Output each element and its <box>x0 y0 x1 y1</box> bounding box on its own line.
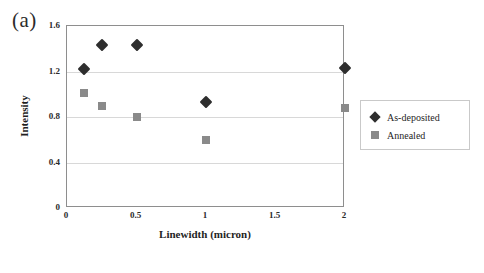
plot-area <box>66 25 344 207</box>
data-point-square <box>133 113 141 121</box>
data-point-diamond <box>95 39 108 52</box>
x-tick-label: 2 <box>342 210 347 220</box>
y-axis-tick-labels: 00.40.81.21.6 <box>0 25 64 207</box>
legend: As-depositedAnnealed <box>360 100 470 150</box>
diamond-swatch-icon <box>369 111 380 122</box>
x-axis-title: Linewidth (micron) <box>159 228 251 240</box>
x-tick-label: 1.5 <box>269 210 280 220</box>
legend-item: Annealed <box>369 126 469 144</box>
data-point-square <box>341 104 349 112</box>
legend-label: As-deposited <box>387 112 440 123</box>
y-tick-label: 1.6 <box>49 20 60 30</box>
data-point-square <box>80 89 88 97</box>
x-tick-label: 1 <box>203 210 208 220</box>
gridline <box>67 163 343 164</box>
gridline <box>67 117 343 118</box>
x-tick-label: 0.5 <box>130 210 141 220</box>
y-tick-label: 0.8 <box>49 111 60 121</box>
data-point-diamond <box>130 39 143 52</box>
legend-item: As-deposited <box>369 108 469 126</box>
y-tick-label: 0 <box>56 202 61 212</box>
square-swatch-icon <box>371 131 379 139</box>
legend-label: Annealed <box>387 130 425 141</box>
figure-panel-a: (a) Intensity 00.40.81.21.6 00.511.52 Li… <box>0 0 484 273</box>
x-tick-label: 0 <box>64 210 69 220</box>
y-tick-label: 0.4 <box>49 157 60 167</box>
data-point-diamond <box>77 63 90 76</box>
data-point-square <box>202 136 210 144</box>
data-point-diamond <box>339 62 352 75</box>
gridline <box>67 72 343 73</box>
data-point-square <box>98 102 106 110</box>
x-axis-tick-labels: 00.511.52 <box>66 210 344 226</box>
data-point-diamond <box>200 96 213 109</box>
y-tick-label: 1.2 <box>49 66 60 76</box>
